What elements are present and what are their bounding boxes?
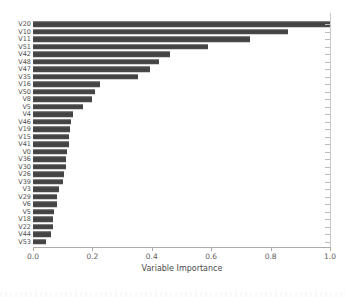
- importance-bar: [33, 111, 73, 117]
- x-tick-label: 0.6: [205, 252, 217, 261]
- right-axis-tick: [325, 107, 330, 108]
- importance-bar: [33, 36, 250, 42]
- right-axis-line: [330, 13, 331, 247]
- importance-bar: [33, 89, 95, 95]
- importance-bar: [33, 21, 330, 27]
- importance-bar: [33, 44, 208, 50]
- importance-bar: [33, 81, 100, 87]
- importance-bar: [33, 224, 53, 230]
- right-axis-tick: [325, 242, 330, 243]
- x-tick-label: 0.0: [27, 252, 39, 261]
- importance-bar: [33, 201, 57, 207]
- importance-bar: [33, 96, 92, 102]
- importance-bar: [33, 126, 70, 132]
- right-axis-tick: [325, 219, 330, 220]
- right-axis-tick: [325, 152, 330, 153]
- importance-bar: [33, 29, 288, 35]
- right-axis-tick: [325, 122, 330, 123]
- x-axis-line: [33, 247, 331, 248]
- right-axis-tick: [325, 32, 330, 33]
- right-axis-tick: [325, 197, 330, 198]
- right-axis-tick: [325, 24, 330, 25]
- x-tick-label: 0.2: [86, 252, 98, 261]
- right-axis-tick: [325, 47, 330, 48]
- importance-bar: [33, 239, 46, 245]
- x-axis-tick: [211, 248, 212, 251]
- importance-bar: [33, 186, 59, 192]
- variable-importance-plot: V20V10V11V51V42V48V47V35V16V50V8V5V4V46V…: [0, 0, 346, 297]
- x-axis-title: Variable Importance: [33, 264, 331, 273]
- x-axis-tick: [33, 248, 34, 251]
- x-tick-label: 1.0: [324, 252, 336, 261]
- right-axis-tick: [325, 39, 330, 40]
- x-axis-tick: [271, 248, 272, 251]
- importance-bar: [33, 231, 51, 237]
- importance-bar: [33, 156, 66, 162]
- right-axis-tick: [325, 84, 330, 85]
- right-axis-tick: [325, 92, 330, 93]
- x-tick-label: 0.4: [146, 252, 158, 261]
- importance-bar: [33, 216, 53, 222]
- right-axis-tick: [325, 114, 330, 115]
- right-axis-tick: [325, 159, 330, 160]
- right-axis-tick: [325, 189, 330, 190]
- importance-bar: [33, 194, 57, 200]
- right-axis-tick: [325, 227, 330, 228]
- right-axis-tick: [325, 212, 330, 213]
- right-axis-tick: [325, 137, 330, 138]
- importance-bar: [33, 149, 67, 155]
- right-axis-tick: [325, 77, 330, 78]
- right-axis-tick: [325, 144, 330, 145]
- importance-bar: [33, 119, 71, 125]
- y-tick-label: V53: [1, 238, 31, 246]
- cropped-caption-remnant: [0, 292, 346, 297]
- x-axis-tick: [92, 248, 93, 251]
- importance-bar: [33, 104, 83, 110]
- importance-bar: [33, 51, 170, 57]
- importance-bar: [33, 74, 138, 80]
- right-axis-tick: [325, 69, 330, 70]
- x-tick-label: 0.8: [265, 252, 277, 261]
- importance-bar: [33, 59, 159, 65]
- importance-bar: [33, 134, 69, 140]
- right-axis-tick: [325, 54, 330, 55]
- right-axis-tick: [325, 174, 330, 175]
- right-axis-tick: [325, 204, 330, 205]
- right-axis-tick: [325, 62, 330, 63]
- importance-bar: [33, 66, 150, 72]
- right-axis-tick: [325, 167, 330, 168]
- x-axis-tick: [330, 248, 331, 251]
- importance-bar: [33, 209, 54, 215]
- importance-bar: [33, 164, 66, 170]
- importance-bar: [33, 141, 69, 147]
- right-axis-tick: [325, 99, 330, 100]
- right-axis-tick: [325, 129, 330, 130]
- x-axis-tick: [152, 248, 153, 251]
- plot-area: V20V10V11V51V42V48V47V35V16V50V8V5V4V46V…: [0, 0, 346, 297]
- importance-bar: [33, 179, 63, 185]
- right-axis-tick: [325, 234, 330, 235]
- importance-bar: [33, 171, 64, 177]
- right-axis-tick: [325, 182, 330, 183]
